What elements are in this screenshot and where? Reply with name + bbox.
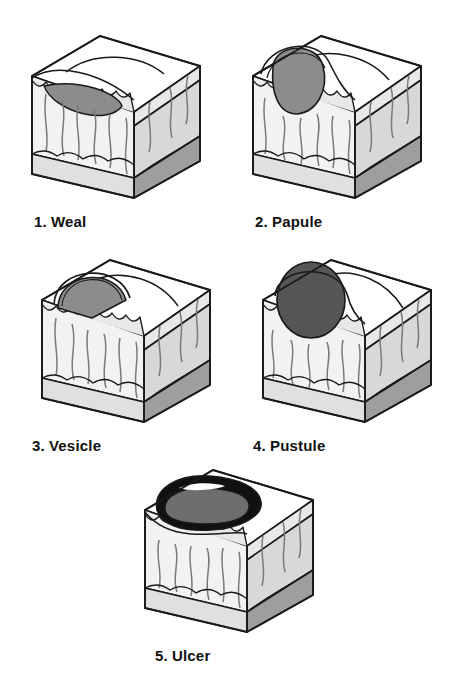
papule-diagram bbox=[243, 28, 433, 208]
panel-name: Pustule bbox=[270, 437, 326, 454]
panel-ulcer: 5.Ulcer bbox=[135, 462, 325, 663]
ulcer-floor bbox=[165, 488, 249, 524]
weal-diagram bbox=[22, 28, 212, 208]
panel-label-pustule: 4.Pustule bbox=[253, 438, 443, 453]
panel-vesicle: 3.Vesicle bbox=[32, 252, 222, 453]
panel-name: Weal bbox=[51, 213, 87, 230]
panel-number: 5. bbox=[155, 647, 168, 664]
panel-pustule: 4.Pustule bbox=[253, 252, 443, 453]
panel-number: 3. bbox=[32, 437, 45, 454]
panel-number: 4. bbox=[253, 437, 266, 454]
panel-label-weal: 1.Weal bbox=[34, 214, 212, 229]
panel-number: 2. bbox=[255, 213, 268, 230]
pustule-lesion bbox=[277, 262, 345, 338]
vesicle-diagram bbox=[32, 252, 222, 432]
pustule-diagram bbox=[253, 252, 443, 432]
panel-number: 1. bbox=[34, 213, 47, 230]
skin-lesion-figure: 1.Weal bbox=[0, 0, 454, 690]
panel-papule: 2.Papule bbox=[243, 28, 433, 229]
panel-weal: 1.Weal bbox=[22, 28, 212, 229]
panel-name: Ulcer bbox=[172, 647, 211, 664]
panel-name: Papule bbox=[272, 213, 322, 230]
panel-label-ulcer: 5.Ulcer bbox=[155, 648, 325, 663]
panel-label-papule: 2.Papule bbox=[255, 214, 433, 229]
panel-name: Vesicle bbox=[49, 437, 101, 454]
panel-label-vesicle: 3.Vesicle bbox=[32, 438, 222, 453]
ulcer-diagram bbox=[135, 462, 325, 642]
